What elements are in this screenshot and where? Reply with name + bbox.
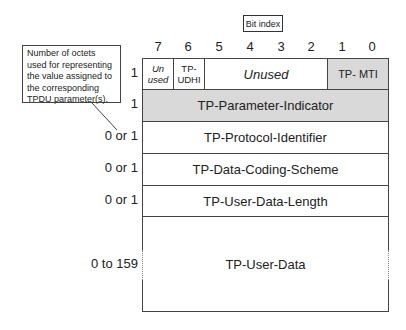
field-tp-user-data-length: TP-User-Data-Length	[142, 185, 389, 217]
field-tp-udhi: TP- UDHI	[173, 58, 205, 90]
field-tp-data-coding-scheme: TP-Data-Coding-Scheme	[142, 153, 389, 186]
row-1-octets: 1	[60, 65, 138, 80]
row-3-octets: 0 or 1	[60, 128, 138, 143]
row-4-octets: 0 or 1	[60, 160, 138, 175]
field-tp-mti: TP- MTI	[327, 58, 389, 90]
field-unused-bit7: Un used	[142, 58, 174, 90]
row-2-octets: 1	[60, 96, 138, 111]
right-dotted-continuation	[388, 250, 389, 280]
row-6-octets: 0 to 159	[60, 256, 138, 271]
left-dotted-continuation	[142, 250, 143, 280]
field-tp-user-data: TP-User-Data	[142, 216, 389, 312]
field-tp-parameter-indicator: TP-Parameter-Indicator	[142, 89, 389, 122]
row-5-octets: 0 or 1	[60, 192, 138, 207]
field-unused-bits5-2: Unused	[204, 58, 328, 90]
field-tp-protocol-identifier: TP-Protocol-Identifier	[142, 121, 389, 154]
